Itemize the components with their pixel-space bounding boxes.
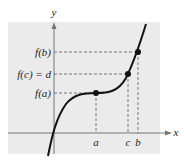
label-a: a — [93, 136, 99, 148]
y-axis-label: y — [51, 6, 57, 18]
x-axis-arrow-icon — [165, 131, 172, 136]
x-axis-label: x — [173, 126, 179, 138]
background-panel — [8, 22, 160, 154]
ivt-diagram: y x f(b) f(c) = d f(a) a c b — [0, 0, 184, 163]
point-b — [135, 49, 141, 55]
label-b: b — [135, 136, 141, 148]
point-c — [125, 71, 131, 77]
label-fb: f(b) — [35, 46, 51, 59]
label-c: c — [126, 136, 131, 148]
point-a — [93, 90, 99, 96]
diagram-svg: y x f(b) f(c) = d f(a) a c b — [0, 0, 184, 163]
label-fc: f(c) = d — [17, 68, 51, 81]
label-fa: f(a) — [35, 87, 51, 100]
